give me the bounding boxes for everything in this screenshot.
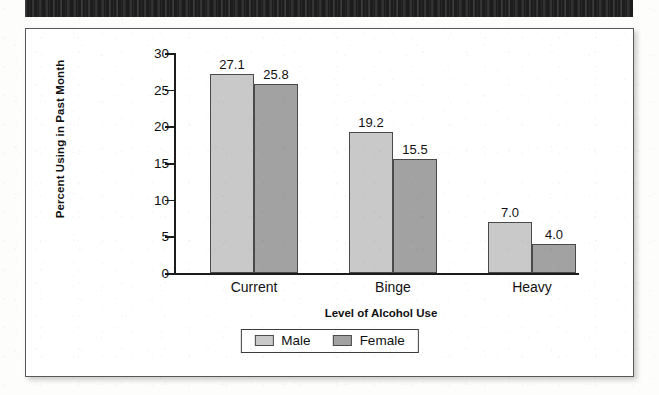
bar-binge-female[interactable]: 15.5 xyxy=(393,159,437,273)
y-tick-label: 15 xyxy=(154,156,169,171)
bar-value-label: 4.0 xyxy=(545,227,563,242)
x-axis-line xyxy=(165,273,579,275)
y-axis-title: Percent Using in Past Month xyxy=(54,29,66,249)
bar-value-label: 15.5 xyxy=(402,142,427,157)
chart-legend: MaleFemale xyxy=(240,329,418,353)
legend-label-male: Male xyxy=(281,333,310,348)
bar-value-label: 27.1 xyxy=(219,57,244,72)
y-tick-label: 25 xyxy=(154,82,169,97)
y-tick-label: 10 xyxy=(154,192,169,207)
legend-item-female[interactable]: Female xyxy=(333,333,405,348)
legend-swatch-female xyxy=(333,335,352,346)
chart-panel: Percent Using in Past Month 051015202530… xyxy=(25,28,634,377)
y-tick-label: 0 xyxy=(161,266,169,281)
legend-item-male[interactable]: Male xyxy=(254,333,310,348)
y-tick-label: 5 xyxy=(161,229,169,244)
bar-value-label: 19.2 xyxy=(358,115,383,130)
plot-area: 051015202530 27.125.8Current19.215.5Bing… xyxy=(174,47,606,273)
bar-current-male[interactable]: 27.1 xyxy=(210,74,254,273)
x-tick-label-binge: Binge xyxy=(375,279,411,295)
x-axis-title: Level of Alcohol Use xyxy=(174,307,588,319)
bar-binge-male[interactable]: 19.2 xyxy=(349,132,393,273)
bar-group: 27.125.8Current xyxy=(210,47,336,273)
header-strip xyxy=(25,0,633,17)
bar-group: 7.04.0Heavy xyxy=(488,47,614,273)
y-axis-line xyxy=(174,53,176,273)
y-tick-label: 30 xyxy=(154,46,169,61)
x-tick-label-current: Current xyxy=(231,279,278,295)
bar-group: 19.215.5Binge xyxy=(349,47,475,273)
legend-swatch-male xyxy=(254,335,273,346)
plot-wrapper: Percent Using in Past Month 051015202530… xyxy=(26,29,633,376)
bar-current-female[interactable]: 25.8 xyxy=(254,84,298,273)
bar-heavy-female[interactable]: 4.0 xyxy=(532,244,576,273)
bar-value-label: 7.0 xyxy=(501,205,519,220)
x-tick-label-heavy: Heavy xyxy=(512,279,552,295)
y-tick-label: 20 xyxy=(154,119,169,134)
bar-value-label: 25.8 xyxy=(263,67,288,82)
legend-label-female: Female xyxy=(360,333,405,348)
bar-heavy-male[interactable]: 7.0 xyxy=(488,222,532,273)
